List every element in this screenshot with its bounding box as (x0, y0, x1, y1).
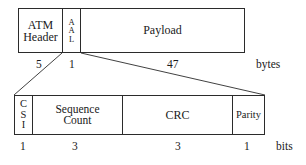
field-payload: Payload (80, 8, 245, 53)
field-sequence-count: Sequence Count (32, 95, 123, 135)
sequence-count-label: Sequence Count (55, 104, 99, 127)
atm-header-label-line-1: ATM (28, 19, 53, 31)
atm-header-label-line-2: Header (23, 31, 58, 43)
crc-label: CRC (165, 109, 189, 122)
unit-label-bits: bits (276, 140, 293, 152)
csi-label-char-3: I (22, 120, 26, 131)
aal-label-vertical: A A L (68, 18, 74, 44)
parity-label: Parity (236, 109, 261, 120)
payload-label: Payload (143, 24, 182, 37)
field-atm-header: ATM Header (18, 8, 63, 53)
atm-cell-row: ATM Header A A L Payload (18, 8, 245, 53)
field-parity: Parity (232, 95, 265, 135)
size-label-crc: 3 (175, 140, 181, 152)
size-label-atm-header: 5 (36, 58, 42, 70)
atm-header-label: ATM Header (23, 19, 58, 43)
size-label-parity: 1 (244, 140, 250, 152)
field-csi: C S I (14, 95, 33, 135)
sequence-count-label-line-2: Count (63, 115, 91, 127)
size-label-payload: 47 (167, 58, 179, 70)
size-label-sequence-count: 3 (72, 140, 78, 152)
field-aal: A A L (62, 8, 81, 53)
aal-label-char-3: L (69, 35, 74, 44)
aal1-header-detail-row: C S I Sequence Count CRC Parity (14, 95, 265, 135)
unit-label-bytes: bytes (256, 58, 280, 70)
size-label-csi: 1 (20, 140, 26, 152)
csi-label-vertical: C S I (20, 99, 27, 131)
atm-aal1-frame-diagram: ATM Header A A L Payload 5 1 47 bytes C … (0, 0, 306, 165)
size-label-aal: 1 (69, 58, 75, 70)
field-crc: CRC (122, 95, 233, 135)
